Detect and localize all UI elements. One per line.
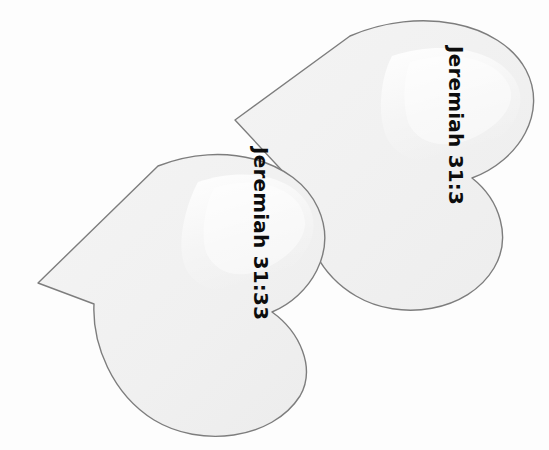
- heart-shapes-illustration: [0, 0, 549, 450]
- image-canvas: Jeremiah 31:3 Jeremiah 31:33: [0, 0, 549, 450]
- heart-shape-lower[interactable]: [38, 155, 325, 437]
